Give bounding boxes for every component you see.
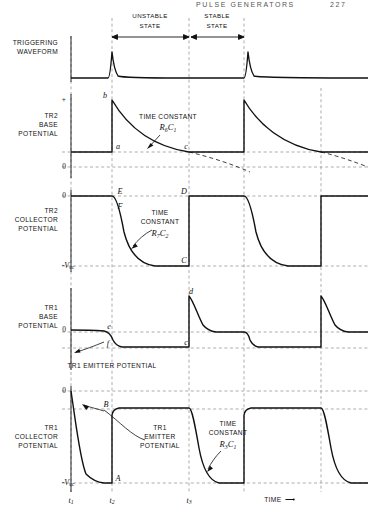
triggering-waveform-curve	[71, 52, 368, 78]
trace-label-tr2-coll-line3: POTENTIAL	[18, 225, 58, 232]
unstable-state-label-line2: STATE	[139, 22, 160, 29]
trace-label-triggering-line2: WAVEFORM	[17, 48, 58, 55]
trace-label-tr1-coll-line2: COLLECTOR	[15, 433, 58, 440]
tr1-base-axis-zero: 0	[62, 325, 66, 334]
tr2-collector-tc-expression: R7C2	[151, 228, 169, 239]
tr2-base-tc-arrowhead	[147, 143, 153, 149]
tr2-collector-tc-line2: CONSTANT	[141, 218, 180, 225]
tr1-base-curve	[71, 296, 368, 347]
point-label-e: e	[107, 322, 111, 331]
tr2-base-tc-expression: R6C1	[159, 122, 177, 133]
point-label-b: b	[103, 91, 107, 100]
tr2-base-axis-plus: +	[62, 95, 66, 104]
tr2-base-gridlines	[62, 152, 368, 167]
point-label-c2: c	[184, 338, 188, 347]
tr2-collector-axis-zero: 0	[62, 191, 66, 200]
stable-state-label-line2: STATE	[206, 22, 227, 29]
tr2-base-axis-zero: 0	[62, 162, 66, 171]
state-span-group	[112, 35, 244, 40]
tr2-collector-curve	[71, 196, 368, 266]
time-axis: t1 t2 t3 TIME⟶	[68, 496, 295, 506]
time-axis-label: TIME⟶	[264, 496, 296, 503]
point-label-d: d	[189, 287, 194, 296]
trace-label-tr2-coll-line1: TR2	[44, 207, 58, 214]
tr1-collector-callout-arrowhead	[82, 404, 89, 410]
tr1-collector-axis-zero: 0	[62, 386, 66, 395]
tr1-emitter-potential-callout: TR1 EMITTER POTENTIAL	[67, 362, 156, 369]
trace-tr1-collector-potential: 0 -Vcc A B TR1 EMITTER POTENTIAL TIME CO…	[15, 386, 368, 492]
point-label-D: D	[180, 187, 187, 196]
point-label-c: c	[184, 142, 188, 151]
tr2-base-asymptote-2	[321, 152, 368, 167]
tr1-collector-tc-expression: R3C1	[219, 439, 237, 450]
trace-tr2-collector-potential: 0 -Vcc E F D C TIME CONSTANT R7C2 TR2 CO…	[15, 187, 368, 272]
figure-root: PULSE GENERATORS 227 UNSTABLE STATE STAB…	[0, 0, 370, 516]
tr2-collector-tc-leader	[133, 230, 152, 246]
trace-tr1-base-potential: 0 d e f c TR1 EMITTER POTENTIAL TR1 BASE…	[18, 287, 368, 370]
tr1-collector-axis-vcc: -Vcc	[62, 478, 75, 488]
unstable-arrow-left	[112, 35, 118, 40]
point-label-C: C	[181, 256, 187, 265]
tr1-collector-tc-line2: CONSTANT	[209, 429, 248, 436]
tr1-collector-curve	[71, 391, 368, 483]
tr2-collector-axis-vcc: -Vcc	[62, 261, 75, 271]
time-tick-t3: t3	[186, 496, 191, 506]
trace-label-tr2-coll-line2: COLLECTOR	[15, 216, 58, 223]
trace-label-tr1-coll-line1: TR1	[44, 424, 58, 431]
tr2-base-asymptotes	[189, 152, 368, 172]
tr1-base-callout-arrowhead	[74, 349, 81, 353]
time-tick-t1: t1	[68, 496, 73, 506]
unstable-state-label-line1: UNSTABLE	[132, 12, 167, 19]
stable-state-label-line1: STABLE	[204, 12, 230, 19]
tr1-collector-tc-line1: TIME	[219, 420, 236, 427]
stable-arrow-left	[191, 35, 197, 40]
tr1-collector-callout-line2: EMITTER	[144, 433, 175, 440]
tr2-collector-gridlines	[62, 196, 368, 266]
tr1-collector-callout-line1: TR1	[153, 424, 167, 431]
tr2-base-asymptote-1	[189, 152, 250, 172]
page-number: 227	[330, 1, 346, 8]
point-label-a: a	[116, 142, 120, 151]
tr1-collector-callout-leader	[104, 410, 145, 440]
page-header-title: PULSE GENERATORS	[196, 1, 295, 8]
point-label-A: A	[114, 474, 121, 483]
trace-tr2-base-potential: + 0 b a c TIME CONSTANT R6C1 TR2 BASE PO…	[18, 91, 368, 178]
point-label-F: F	[116, 202, 123, 211]
trace-label-tr2-base-line1: TR2	[44, 112, 58, 119]
trace-label-tr2-base-line3: POTENTIAL	[18, 130, 58, 137]
point-label-E: E	[116, 187, 122, 196]
vertical-gridlines	[71, 18, 321, 492]
trace-label-triggering-line1: TRIGGERING	[13, 39, 58, 46]
trace-label-tr1-coll-line3: POTENTIAL	[18, 442, 58, 449]
tr1-collector-callout-line3: POTENTIAL	[140, 442, 180, 449]
trace-label-tr1-base-line2: BASE	[39, 313, 58, 320]
trace-label-tr1-base-line1: TR1	[44, 304, 58, 311]
unstable-arrow-right	[184, 35, 190, 40]
waveform-diagram: PULSE GENERATORS 227 UNSTABLE STATE STAB…	[0, 0, 370, 516]
trace-triggering-waveform: TRIGGERING WAVEFORM	[13, 36, 368, 82]
stable-arrow-right	[239, 35, 245, 40]
tr2-base-tc-line1: TIME CONSTANT	[139, 113, 197, 120]
time-tick-t2: t2	[109, 496, 114, 506]
trace-label-tr1-base-line3: POTENTIAL	[18, 322, 58, 329]
tr2-collector-tc-line1: TIME	[151, 209, 168, 216]
tr1-base-callout-leader	[76, 342, 104, 352]
trace-label-tr2-base-line2: BASE	[39, 121, 58, 128]
point-label-f: f	[107, 339, 111, 348]
point-label-B: B	[103, 400, 108, 409]
